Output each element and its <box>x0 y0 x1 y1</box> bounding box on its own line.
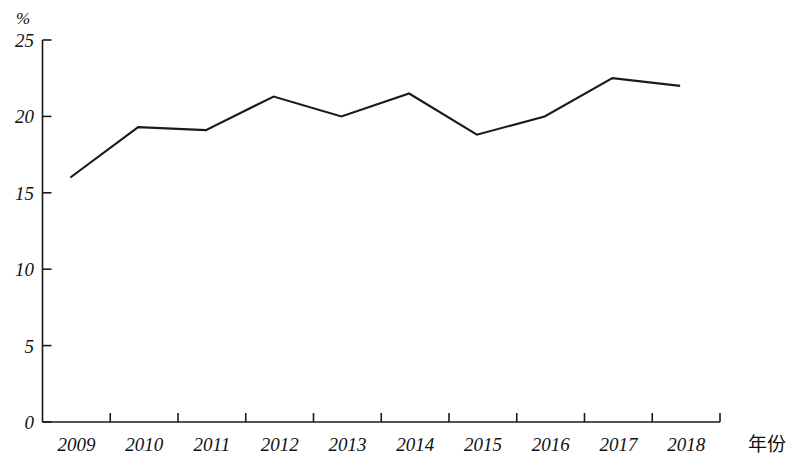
x-axis-tick-label: 2018 <box>667 435 705 454</box>
x-axis-tick-label: 2012 <box>261 435 299 454</box>
x-axis-tick-label: 2011 <box>194 435 231 454</box>
x-axis-tick-label: 2009 <box>57 435 95 454</box>
x-axis-title: 年份 <box>748 435 786 454</box>
y-axis-tick-label: 10 <box>0 260 34 279</box>
x-axis-tick-label: 2016 <box>532 435 570 454</box>
y-axis-ticks <box>43 40 52 422</box>
x-axis-tick-label: 2014 <box>396 435 434 454</box>
x-axis-tick-label: 2017 <box>599 435 637 454</box>
axis-lines <box>43 40 721 422</box>
y-axis-tick-label: 5 <box>0 336 34 355</box>
line-chart: % 0510152025 200920102011201220132014201… <box>0 0 791 458</box>
y-axis-tick-label: 25 <box>0 31 34 50</box>
chart-canvas <box>0 0 791 458</box>
y-axis-tick-label: 15 <box>0 183 34 202</box>
y-axis-unit-label: % <box>16 10 30 27</box>
y-axis-tick-label: 20 <box>0 107 34 126</box>
x-axis-tick-label: 2010 <box>125 435 163 454</box>
x-axis-tick-label: 2015 <box>464 435 502 454</box>
x-axis-ticks <box>110 413 720 422</box>
x-axis-tick-label: 2013 <box>328 435 366 454</box>
data-series-line <box>70 78 680 177</box>
y-axis-tick-label: 0 <box>0 413 34 432</box>
